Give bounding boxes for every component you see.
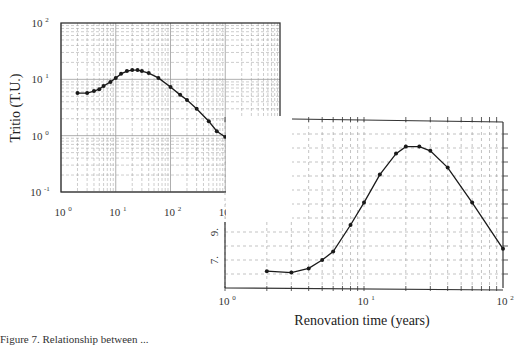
data-point (108, 80, 112, 84)
data-point (75, 91, 79, 95)
data-point (289, 271, 293, 275)
right-x-tick-label: 10 1 (357, 294, 375, 307)
data-point (136, 68, 140, 72)
data-point (501, 247, 505, 251)
data-point (92, 89, 96, 93)
data-point (378, 173, 382, 177)
data-point (394, 152, 398, 156)
data-point (147, 71, 151, 75)
left-y-tick-label: 10 1 (31, 72, 49, 85)
right-x-tick-label: 10 0 (218, 294, 236, 307)
left-x-tick-label: 10 2 (164, 205, 182, 218)
left-y-tick-label: 10 0 (31, 129, 49, 142)
data-point (428, 149, 432, 153)
data-point (178, 93, 182, 97)
right-y-tick-label: 9. (208, 228, 220, 237)
data-point (140, 69, 144, 73)
right-series-line (267, 147, 503, 273)
right-chart: 10 010 110 27.9.Renovation time (years) (208, 116, 514, 329)
figure-caption: Figure 7. Relationship between ... (0, 333, 148, 345)
data-point (114, 76, 118, 80)
left-x-tick-label: 10 1 (109, 205, 127, 218)
data-point (446, 166, 450, 170)
data-point (156, 76, 160, 80)
data-point (307, 266, 311, 270)
data-point (195, 107, 199, 111)
data-point (125, 69, 129, 73)
data-point (362, 201, 366, 205)
right-y-tick-label: 7. (208, 256, 220, 265)
data-point (119, 72, 123, 76)
data-point (207, 119, 211, 123)
left-x-tick-label: 10 0 (54, 205, 72, 218)
data-point (85, 91, 89, 95)
data-point (169, 85, 173, 89)
data-point (265, 269, 269, 273)
data-point (185, 98, 189, 102)
right-frame-top (292, 119, 503, 122)
left-y-tick-label: 10 2 (31, 16, 49, 29)
data-point (102, 84, 106, 88)
data-point (417, 145, 421, 149)
data-point (404, 145, 408, 149)
left-y-tick-label: 10 -1 (30, 185, 50, 198)
right-x-tick-label: 10 2 (496, 294, 514, 307)
data-point (215, 129, 219, 133)
data-point (349, 223, 353, 227)
data-point (97, 87, 101, 91)
data-point (470, 201, 474, 205)
right-x-axis-title: Renovation time (years) (294, 313, 430, 329)
left-y-axis-title: Tritio (T.U.) (8, 73, 24, 142)
data-point (320, 258, 324, 262)
data-point (130, 68, 134, 72)
data-point (331, 250, 335, 254)
